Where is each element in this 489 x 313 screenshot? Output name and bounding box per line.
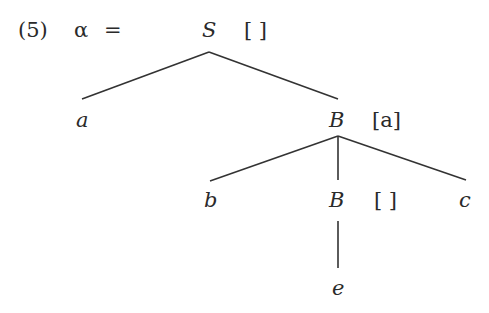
edge-b-c xyxy=(338,136,466,180)
leaf-a: a xyxy=(76,110,89,131)
edge-b-b xyxy=(210,136,338,181)
tree-edges xyxy=(0,0,489,313)
root-node-stack: [ ] xyxy=(244,20,267,41)
nested-node-b-stack: [ ] xyxy=(374,190,397,211)
edge-s-b xyxy=(209,52,338,99)
node-b-label: B xyxy=(329,110,344,131)
leaf-c: c xyxy=(459,190,471,211)
nested-node-b-label: B xyxy=(329,190,344,211)
node-b-stack: [a] xyxy=(372,110,401,131)
leaf-b: b xyxy=(204,190,217,211)
example-number: (5) xyxy=(18,20,48,41)
alpha-symbol: α xyxy=(74,20,88,41)
leaf-e: e xyxy=(332,278,344,299)
root-node-label: S xyxy=(202,20,216,41)
edge-s-a xyxy=(82,52,209,99)
equals-sign: = xyxy=(104,20,122,41)
